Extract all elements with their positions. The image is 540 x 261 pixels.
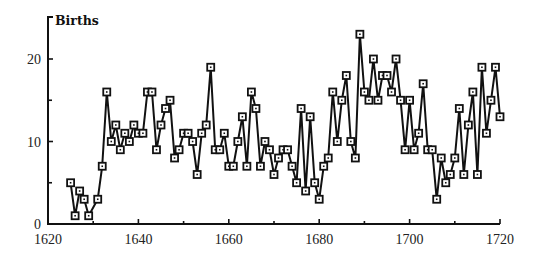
data-point-center [246, 165, 248, 167]
data-point-center [309, 116, 311, 118]
data-point-center [359, 33, 361, 35]
data-point-center [110, 141, 112, 143]
data-point-center [436, 198, 438, 200]
data-point-center [165, 108, 167, 110]
data-point-center [129, 141, 131, 143]
data-point-center [445, 182, 447, 184]
data-point-center [486, 132, 488, 134]
data-point-center [449, 174, 451, 176]
data-point-center [196, 174, 198, 176]
data-point-center [386, 75, 388, 77]
data-point-center [296, 182, 298, 184]
data-point-center [83, 198, 85, 200]
data-point-center [355, 157, 357, 159]
data-point-center [124, 132, 126, 134]
data-point-center [368, 99, 370, 101]
data-point-center [291, 165, 293, 167]
data-point-center [156, 149, 158, 151]
x-tick-label: 1660 [215, 232, 243, 247]
axis-lines [48, 17, 500, 224]
data-point-center [79, 190, 81, 192]
data-point-center [106, 91, 108, 93]
data-point-center [237, 141, 239, 143]
data-point-center [273, 174, 275, 176]
data-point-center [314, 182, 316, 184]
data-point-center [440, 157, 442, 159]
data-point-center [422, 83, 424, 85]
data-point-center [391, 91, 393, 93]
data-point-center [481, 66, 483, 68]
data-point-center [327, 157, 329, 159]
data-point-center [233, 165, 235, 167]
data-point-center [101, 165, 103, 167]
data-point-center [201, 132, 203, 134]
data-point-center [490, 99, 492, 101]
data-point-center [70, 182, 72, 184]
data-point-center [364, 91, 366, 93]
x-tick-label: 1700 [396, 232, 424, 247]
data-point-center [115, 124, 117, 126]
data-point-center [418, 132, 420, 134]
data-point-center [318, 198, 320, 200]
data-point-center [187, 132, 189, 134]
data-point-center [260, 165, 262, 167]
data-point-center [495, 66, 497, 68]
data-point-center [454, 157, 456, 159]
axis-ticks [48, 59, 500, 224]
data-point-center [346, 75, 348, 77]
data-point-center [269, 149, 271, 151]
data-point-center [223, 132, 225, 134]
data-point-center [174, 157, 176, 159]
y-tick-label: 20 [27, 52, 41, 67]
data-point-center [133, 124, 135, 126]
data-point-center [350, 141, 352, 143]
data-point-center [278, 157, 280, 159]
data-point-center [160, 124, 162, 126]
data-point-center [251, 91, 253, 93]
data-point-center [169, 99, 171, 101]
x-tick-label: 1720 [486, 232, 514, 247]
data-point-center [499, 116, 501, 118]
data-point-center [255, 108, 257, 110]
data-point-center [178, 149, 180, 151]
data-point-center [219, 149, 221, 151]
data-point-center [300, 108, 302, 110]
data-point-center [97, 198, 99, 200]
data-point-center [323, 165, 325, 167]
data-point-center [88, 215, 90, 217]
data-point-center [287, 149, 289, 151]
x-tick-label: 1640 [124, 232, 152, 247]
data-point-center [332, 91, 334, 93]
data-point-center [242, 116, 244, 118]
x-tick-label: 1620 [34, 232, 62, 247]
data-point-center [336, 141, 338, 143]
x-tick-label: 1680 [305, 232, 333, 247]
data-point-center [377, 99, 379, 101]
data-point-center [341, 99, 343, 101]
data-point-center [477, 174, 479, 176]
data-point-center [205, 124, 207, 126]
data-point-center [472, 91, 474, 93]
data-point-center [463, 174, 465, 176]
data-point-center [459, 108, 461, 110]
data-point-center [142, 132, 144, 134]
data-point-center [431, 149, 433, 151]
axes [48, 17, 500, 224]
data-point-center [120, 149, 122, 151]
data-point-center [404, 149, 406, 151]
data-point-center [264, 141, 266, 143]
data-point-center [210, 66, 212, 68]
data-point-center [409, 99, 411, 101]
data-point-center [413, 149, 415, 151]
chart-title: Births [55, 13, 99, 28]
data-point-center [305, 190, 307, 192]
y-tick-label: 10 [27, 135, 41, 150]
y-tick-label: 0 [34, 217, 41, 232]
data-point-center [373, 58, 375, 60]
data-point-center [468, 124, 470, 126]
data-point-center [395, 58, 397, 60]
data-point-center [192, 141, 194, 143]
data-point-center [151, 91, 153, 93]
data-point-center [74, 215, 76, 217]
data-point-center [400, 99, 402, 101]
